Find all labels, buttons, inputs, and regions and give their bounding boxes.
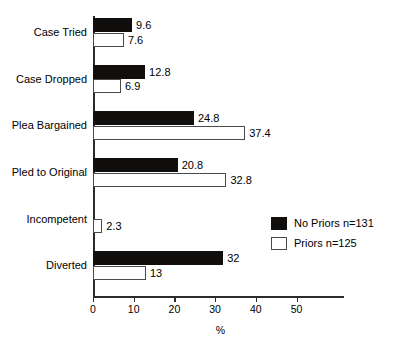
bar-value-priors-0: 7.6 xyxy=(128,34,143,46)
category-label-0: Case Tried xyxy=(34,26,87,38)
bar-priors-5: 13 xyxy=(93,266,146,280)
bar-priors-3: 32.8 xyxy=(93,173,226,187)
category-label-3: Pled to Original xyxy=(12,166,87,178)
legend-label-0: No Priors n=131 xyxy=(294,217,374,229)
category-label-1: Case Dropped xyxy=(16,73,87,85)
bar-priors-0: 7.6 xyxy=(93,33,124,47)
x-tick-label-40: 40 xyxy=(241,303,271,315)
bar-priors-1: 6.9 xyxy=(93,79,121,93)
x-axis-line xyxy=(93,296,344,298)
x-tick-label-0: 0 xyxy=(78,303,108,315)
legend-swatch-dark xyxy=(271,217,287,230)
legend-item-0: No Priors n=131 xyxy=(271,213,374,233)
bar-value-priors-5: 13 xyxy=(150,267,162,279)
bar-value-no-priors-0: 9.6 xyxy=(136,19,151,31)
bar-value-no-priors-2: 24.8 xyxy=(198,112,219,124)
bar-priors-4: 2.3 xyxy=(93,219,102,233)
bar-no-priors-0: 9.6 xyxy=(93,18,132,32)
x-tick-label-10: 10 xyxy=(119,303,149,315)
x-tick-50 xyxy=(297,297,298,302)
bar-group: Diverted3213 xyxy=(93,249,344,296)
legend-swatch-light xyxy=(271,237,287,250)
chart-legend: No Priors n=131Priors n=125 xyxy=(271,213,374,253)
bar-group: Case Dropped12.86.9 xyxy=(93,63,344,110)
x-tick-10 xyxy=(134,297,135,302)
bar-priors-2: 37.4 xyxy=(93,126,245,140)
category-label-4: Incompetent xyxy=(26,213,87,225)
x-tick-label-50: 50 xyxy=(282,303,312,315)
bar-group: Pled to Original20.832.8 xyxy=(93,156,344,203)
bar-group: Case Tried9.67.6 xyxy=(93,16,344,63)
bar-value-priors-3: 32.8 xyxy=(230,174,251,186)
x-tick-40 xyxy=(256,297,257,302)
x-tick-0 xyxy=(93,297,94,302)
x-axis-title: % xyxy=(0,324,397,336)
bar-value-priors-2: 37.4 xyxy=(249,127,270,139)
category-label-2: Plea Bargained xyxy=(12,119,87,131)
bar-value-no-priors-5: 32 xyxy=(227,252,239,264)
bar-no-priors-5: 32 xyxy=(93,251,223,265)
bar-no-priors-3: 20.8 xyxy=(93,158,178,172)
x-tick-20 xyxy=(174,297,175,302)
x-tick-label-20: 20 xyxy=(159,303,189,315)
legend-label-1: Priors n=125 xyxy=(294,237,357,249)
bar-value-priors-4: 2.3 xyxy=(106,220,121,232)
bar-value-priors-1: 6.9 xyxy=(125,80,140,92)
x-tick-label-30: 30 xyxy=(200,303,230,315)
x-tick-30 xyxy=(215,297,216,302)
bar-value-no-priors-3: 20.8 xyxy=(182,159,203,171)
bar-no-priors-1: 12.8 xyxy=(93,65,145,79)
bar-group: Plea Bargained24.837.4 xyxy=(93,109,344,156)
bar-no-priors-2: 24.8 xyxy=(93,111,194,125)
plot-area: Case Tried9.67.6Case Dropped12.86.9Plea … xyxy=(93,16,344,296)
bar-value-no-priors-1: 12.8 xyxy=(149,66,170,78)
bar-chart-figure: 01020304050 % Case Tried9.67.6Case Dropp… xyxy=(0,0,397,350)
legend-item-1: Priors n=125 xyxy=(271,233,374,253)
category-label-5: Diverted xyxy=(46,259,87,271)
